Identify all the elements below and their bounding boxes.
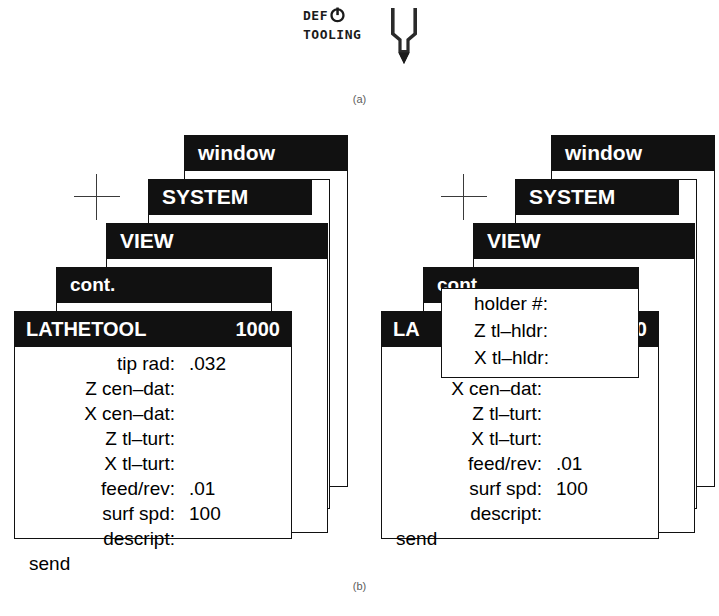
field-row[interactable]: X tl–turt: (15, 453, 291, 478)
caption-a: (a) (0, 93, 719, 105)
send-button[interactable]: send (382, 528, 658, 553)
field-label: descript: (15, 528, 179, 550)
crosshair-cursor-icon (441, 174, 487, 220)
titlebar-system-label: SYSTEM (162, 185, 248, 209)
field-label: X tl–turt: (382, 428, 546, 450)
send-button[interactable]: send (15, 553, 291, 578)
def-tooling-logo: DEF TOOLING (303, 6, 383, 58)
field-label: feed/rev: (382, 453, 546, 475)
field-label: X cen–dat: (15, 403, 179, 425)
field-label: Z tl–turt: (15, 428, 179, 450)
holder-field-row[interactable]: holder #: (442, 293, 638, 320)
figure-b-screen-mockups: window SYSTEM VIEW cont. LATHETOOL 1000 … (0, 118, 719, 578)
field-label: Z tl–turt: (382, 403, 546, 425)
crosshair-cursor-icon (74, 174, 120, 220)
field-value: 100 (546, 478, 656, 500)
holder-popup-dialog: holder #: Z tl–hldr: X tl–hldr: (441, 288, 639, 378)
field-row[interactable]: tip rad: .032 (15, 353, 291, 378)
titlebar-view-label: VIEW (487, 229, 541, 253)
titlebar-lathetool-label-clipped: LA (393, 318, 420, 341)
titlebar-lathetool[interactable]: LATHETOOL 1000 (14, 311, 292, 347)
logo-text-tooling: TOOLING (303, 25, 383, 44)
titlebar-system[interactable]: SYSTEM (148, 179, 312, 215)
field-label: surf spd: (382, 478, 546, 500)
field-row[interactable]: feed/rev: .01 (15, 478, 291, 503)
field-row[interactable]: feed/rev: .01 (382, 453, 658, 478)
field-row[interactable]: descript: (382, 503, 658, 528)
field-label: X tl–turt: (15, 453, 179, 475)
titlebar-lathetool-value: 1000 (236, 318, 281, 341)
field-value: .032 (179, 353, 289, 375)
field-label: tip rad: (15, 353, 179, 375)
field-label: descript: (382, 503, 546, 525)
power-icon (329, 7, 346, 24)
field-row[interactable]: X cen–dat: (15, 403, 291, 428)
panel-lathetool-default: window SYSTEM VIEW cont. LATHETOOL 1000 … (8, 118, 348, 578)
field-value: 100 (179, 503, 289, 525)
figure-a-logo-strip: DEF TOOLING (a) (0, 0, 719, 118)
logo-text-def: DEF (303, 6, 328, 25)
field-label: Z cen–dat: (15, 378, 179, 400)
field-row[interactable]: surf spd: 100 (382, 478, 658, 503)
titlebar-cont-label: cont. (70, 274, 115, 296)
field-row[interactable]: Z tl–turt: (382, 403, 658, 428)
titlebar-window-label: window (565, 141, 642, 165)
field-row[interactable]: Z tl–turt: (15, 428, 291, 453)
holder-field-row[interactable]: X tl–hldr: (442, 347, 638, 374)
titlebar-lathetool-label: LATHETOOL (26, 318, 146, 341)
field-row[interactable]: Z cen–dat: (15, 378, 291, 403)
caption-b: (b) (0, 580, 719, 592)
field-row[interactable]: X tl–turt: (382, 428, 658, 453)
field-label: X cen–dat: (382, 378, 546, 400)
titlebar-window[interactable]: window (551, 135, 715, 171)
titlebar-window[interactable]: window (184, 135, 348, 171)
titlebar-view[interactable]: VIEW (106, 223, 328, 259)
panel-lathetool-holder-popup: window SYSTEM VIEW cont. LA 00 Z cen–dat… (375, 118, 715, 578)
field-value: .01 (179, 478, 289, 500)
titlebar-cont[interactable]: cont. (56, 267, 272, 303)
field-label: feed/rev: (15, 478, 179, 500)
titlebar-view[interactable]: VIEW (473, 223, 695, 259)
logo-line-1: DEF (303, 6, 383, 25)
holder-field-row[interactable]: Z tl–hldr: (442, 320, 638, 347)
send-label: send (382, 528, 441, 550)
lathe-tool-tip-icon (382, 6, 426, 68)
send-label: send (15, 553, 74, 575)
field-value: .01 (546, 453, 656, 475)
titlebar-window-label: window (198, 141, 275, 165)
field-row[interactable]: X cen–dat: (382, 378, 658, 403)
titlebar-system[interactable]: SYSTEM (515, 179, 679, 215)
titlebar-system-label: SYSTEM (529, 185, 615, 209)
lathetool-field-list: tip rad: .032 Z cen–dat: X cen–dat: Z tl… (14, 347, 292, 539)
field-label: surf spd: (15, 503, 179, 525)
titlebar-view-label: VIEW (120, 229, 174, 253)
field-row[interactable]: surf spd: 100 (15, 503, 291, 528)
field-row[interactable]: descript: (15, 528, 291, 553)
